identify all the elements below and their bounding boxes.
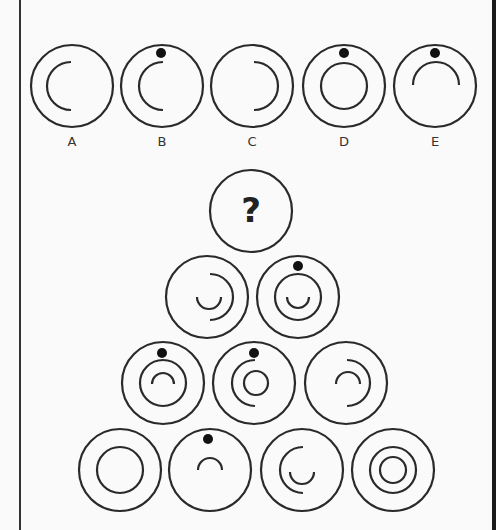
dot-icon: [339, 48, 349, 58]
puzzle-canvas: [0, 0, 496, 530]
pyramid-r4-c4: [352, 429, 434, 511]
pyramid-r3-c3: [305, 342, 387, 424]
pyramid-r4-c2: [169, 429, 251, 511]
dot-icon: [156, 48, 166, 58]
pyramid-r3-c1: [122, 342, 204, 424]
option-c[interactable]: [211, 45, 293, 127]
option-a[interactable]: [31, 45, 113, 127]
option-a-label: A: [62, 134, 82, 149]
option-b[interactable]: [121, 45, 203, 127]
pyramid-r4-c3: [261, 429, 343, 511]
pyramid-r2-c2: [257, 256, 339, 338]
question-mark: ?: [236, 190, 266, 230]
pyramid-r4-c1: [79, 429, 161, 511]
option-b-label: B: [152, 134, 172, 149]
option-d[interactable]: [303, 45, 385, 127]
option-c-label: C: [242, 134, 262, 149]
pyramid-r2-c1: [166, 256, 248, 338]
option-e[interactable]: [394, 45, 476, 127]
dot-icon: [430, 48, 440, 58]
option-d-label: D: [334, 134, 354, 149]
dot-icon: [293, 261, 303, 271]
pyramid-r3-c2: [213, 342, 295, 424]
dot-icon: [249, 348, 259, 358]
option-e-label: E: [425, 134, 445, 149]
dot-icon: [203, 434, 213, 444]
dot-icon: [157, 348, 167, 358]
